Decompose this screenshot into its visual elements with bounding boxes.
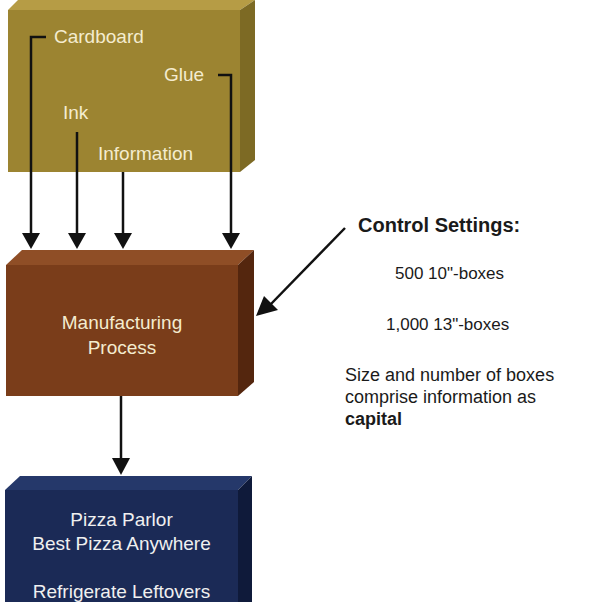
label-glue: Glue: [164, 64, 204, 86]
control-setting-2: 1,000 13"-boxes: [386, 315, 509, 335]
process-line2: Process: [6, 335, 238, 360]
control-title: Control Settings:: [358, 214, 520, 237]
label-cardboard: Cardboard: [54, 26, 144, 48]
output-line1: Pizza Parlor: [5, 508, 238, 532]
label-information: Information: [98, 143, 193, 165]
process-line1: Manufacturing: [6, 310, 238, 335]
output-line3: Refrigerate Leftovers: [5, 580, 238, 602]
control-note: Size and number of boxes comprise inform…: [345, 364, 554, 430]
control-note-line2: comprise information as: [345, 386, 554, 408]
output-line2: Best Pizza Anywhere: [5, 532, 238, 556]
control-note-bold: capital: [345, 408, 554, 430]
output-label: Pizza Parlor Best Pizza Anywhere Refrige…: [5, 508, 238, 602]
label-ink: Ink: [63, 102, 88, 124]
control-note-line1: Size and number of boxes: [345, 364, 554, 386]
process-label: Manufacturing Process: [6, 310, 238, 360]
control-setting-1: 500 10"-boxes: [395, 264, 504, 284]
